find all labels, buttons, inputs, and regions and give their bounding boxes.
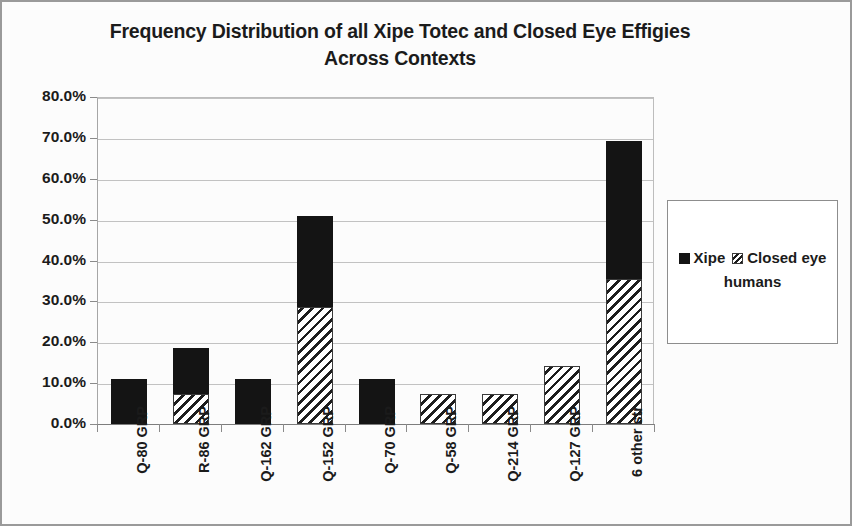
y-axis-tick-label: 0.0% <box>2 414 86 432</box>
bar-group[interactable] <box>482 97 518 424</box>
chart-figure: Frequency Distribution of all Xipe Totec… <box>0 0 852 526</box>
x-axis-tick-label: Q-58 GRP <box>443 406 459 516</box>
x-axis-tick <box>592 424 593 432</box>
x-axis-tick <box>468 424 469 432</box>
chart-title: Frequency Distribution of all Xipe Totec… <box>60 18 740 72</box>
y-axis-tick <box>90 138 97 139</box>
x-axis-tick-label: Q-70 GRP <box>382 406 398 516</box>
x-axis-tick <box>221 424 222 432</box>
bar-group[interactable] <box>297 97 333 424</box>
y-axis-tick-label: 70.0% <box>2 128 86 146</box>
bar-segment-xipe[interactable] <box>173 348 209 393</box>
y-axis-tick-label: 40.0% <box>2 251 86 269</box>
x-axis-tick <box>159 424 160 432</box>
x-axis-tick-label: 6 other str <box>629 406 645 516</box>
x-axis-tick-label: Q-152 GRP <box>320 406 336 516</box>
y-axis-tick <box>90 301 97 302</box>
y-axis-tick <box>90 261 97 262</box>
legend-label-xipe: Xipe <box>694 249 726 266</box>
x-axis-tick-label: Q-214 GRP <box>505 406 521 516</box>
bar-segment-closed-eye-humans[interactable] <box>606 279 642 425</box>
x-axis-tick <box>654 424 655 432</box>
bar-group[interactable] <box>420 97 456 424</box>
x-axis-tick-label: Q-127 GRP <box>567 406 583 516</box>
legend-swatch-hatch-icon <box>732 253 743 264</box>
x-axis-tick <box>345 424 346 432</box>
y-axis-tick <box>90 342 97 343</box>
bar-group[interactable] <box>606 97 642 424</box>
legend-entry-xipe: Xipe <box>679 249 726 266</box>
legend-swatch-solid-icon <box>679 253 690 264</box>
x-axis-tick <box>530 424 531 432</box>
x-axis-tick-label: Q-80 GRP <box>134 406 150 516</box>
x-axis-tick-label: Q-162 GRP <box>258 406 274 516</box>
bar-group[interactable] <box>544 97 580 424</box>
y-axis-tick <box>90 220 97 221</box>
y-axis-tick <box>90 97 97 98</box>
legend-entry-closed-eye: Closed eye humans <box>724 249 827 290</box>
legend-content: XipeClosed eye humans <box>674 246 831 294</box>
chart-title-line-1: Frequency Distribution of all Xipe Totec… <box>60 18 740 45</box>
bar-segment-xipe[interactable] <box>606 141 642 278</box>
chart-legend: XipeClosed eye humans <box>667 200 838 344</box>
y-axis-tick-label: 30.0% <box>2 291 86 309</box>
y-axis-tick <box>90 179 97 180</box>
x-axis-tick-label: R-86 GRP <box>196 406 212 516</box>
y-axis-tick-label: 50.0% <box>2 210 86 228</box>
y-axis-tick-label: 60.0% <box>2 169 86 187</box>
bar-group[interactable] <box>111 97 147 424</box>
bar-group[interactable] <box>173 97 209 424</box>
y-axis-tick <box>90 383 97 384</box>
bar-group[interactable] <box>235 97 271 424</box>
bar-group[interactable] <box>359 97 395 424</box>
x-axis-tick <box>283 424 284 432</box>
y-axis-tick-label: 10.0% <box>2 373 86 391</box>
y-axis-tick <box>90 424 97 425</box>
x-axis-tick <box>406 424 407 432</box>
x-axis-tick <box>97 424 98 432</box>
bar-segment-xipe[interactable] <box>297 216 333 307</box>
y-axis-tick-label: 20.0% <box>2 332 86 350</box>
chart-title-line-2: Across Contexts <box>60 45 740 72</box>
plot-area <box>97 97 654 424</box>
y-axis-tick-label: 80.0% <box>2 87 86 105</box>
